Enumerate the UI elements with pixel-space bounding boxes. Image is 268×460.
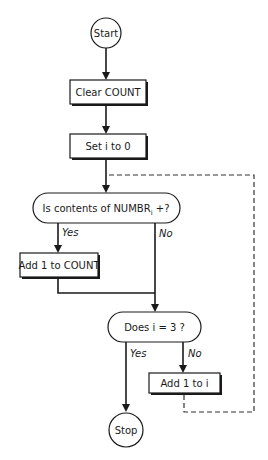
edge-set-to-decision	[102, 160, 110, 193]
set-i-node: Set i to 0	[70, 134, 148, 160]
edge-positive-no: No	[151, 223, 173, 312]
add-count-node: Add 1 to COUNT	[18, 253, 100, 279]
edge-positive-yes: Yes	[54, 223, 78, 253]
decision-positive-suffix: +?	[153, 203, 170, 214]
decision-i3-node: Does i = 3 ?	[108, 312, 201, 342]
edge-i3-no: No	[179, 342, 202, 373]
start-node: Start	[91, 18, 121, 48]
decision-positive-node: Is contents of NUMBRi +?	[33, 193, 180, 223]
i3-yes-label: Yes	[130, 348, 146, 359]
clear-count-label: Clear COUNT	[75, 87, 141, 98]
positive-no-label: No	[159, 228, 173, 239]
set-i-label: Set i to 0	[85, 141, 130, 152]
add-count-label: Add 1 to COUNT	[18, 260, 100, 271]
decision-i3-label: Does i = 3 ?	[124, 322, 185, 333]
positive-yes-label: Yes	[62, 227, 78, 238]
edge-add-count-merge	[58, 279, 155, 293]
stop-label: Stop	[115, 425, 138, 436]
decision-positive-label: Is contents of NUMBR	[43, 203, 151, 214]
flowchart: Start Clear COUNT Set i to 0 Is contents…	[0, 0, 268, 460]
edge-clear-to-set	[102, 106, 110, 134]
stop-node: Stop	[109, 413, 143, 447]
edge-i3-yes: Yes	[122, 342, 146, 412]
i3-no-label: No	[188, 348, 202, 359]
add-i-node: Add 1 to i	[149, 373, 222, 395]
add-i-label: Add 1 to i	[160, 378, 208, 389]
clear-count-node: Clear COUNT	[70, 80, 148, 106]
start-label: Start	[94, 28, 119, 39]
edge-start-to-clear	[102, 48, 110, 80]
